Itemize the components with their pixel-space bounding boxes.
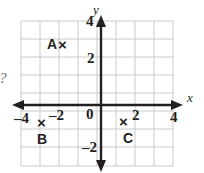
- x-tick--2: –2: [48, 107, 64, 123]
- point-b-label: B: [37, 131, 47, 147]
- point-a-label: A: [47, 36, 57, 52]
- y-tick-2: 2: [87, 50, 95, 66]
- x-tick-2: 2: [132, 107, 140, 123]
- point-b-marker: ×: [37, 114, 46, 131]
- y-tick--2: –2: [81, 139, 97, 155]
- y-tick-4: 4: [86, 13, 94, 29]
- coordinate-plane-figure: x y –4 –2 2 4 4 2 –2 0 A × × B × C ?: [0, 0, 204, 173]
- point-c-label: C: [123, 130, 133, 146]
- origin-label: 0: [86, 106, 94, 122]
- point-b: × B: [37, 114, 47, 147]
- x-tick-4: 4: [170, 109, 178, 125]
- point-a-marker: ×: [58, 36, 67, 53]
- point-a: A ×: [47, 36, 67, 53]
- stray-question-mark: ?: [0, 70, 7, 86]
- coordinate-plane-svg: x y –4 –2 2 4 4 2 –2 0 A × × B × C ?: [0, 0, 204, 173]
- point-c: × C: [119, 113, 133, 146]
- point-c-marker: ×: [119, 113, 128, 130]
- x-axis-label: x: [186, 90, 193, 105]
- x-tick--4: –4: [13, 110, 30, 126]
- x-axis-left-arrow: [12, 100, 24, 110]
